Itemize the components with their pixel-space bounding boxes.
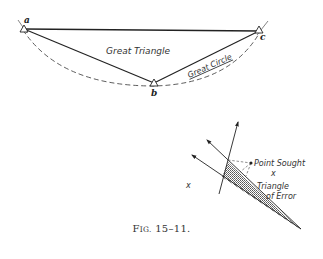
great-triangle-diagram: a c b Great Triangle Great Circle	[18, 15, 268, 98]
side-bc	[154, 31, 259, 83]
point-sought-label: Point Sought	[254, 159, 306, 168]
station-b-label: b	[151, 88, 157, 98]
figure-caption: FIG. 15–11.	[0, 223, 323, 234]
station-a-label: a	[24, 15, 30, 25]
figure-canvas: a c b Great Triangle Great Circle Point …	[0, 0, 323, 259]
caption-prefix: F	[132, 223, 139, 234]
great-triangle-label: Great Triangle	[106, 46, 171, 56]
triangle-of-error-diagram: Point Sought x x Triangle of Error	[185, 122, 306, 229]
x-mark-left: x	[185, 181, 191, 190]
station-c-label: c	[260, 32, 266, 42]
triangle-station-icon	[150, 79, 158, 86]
triangle-label-line1: Triangle	[257, 182, 289, 191]
triangle-label-line2: of Error	[266, 192, 297, 201]
caption-smallcaps: IG.	[140, 225, 152, 234]
great-circle-label: Great Circle	[186, 52, 233, 80]
caption-number: 15–11.	[152, 223, 191, 234]
side-ab	[24, 29, 154, 83]
station-c: c	[255, 21, 268, 42]
side-ac	[24, 29, 259, 31]
x-mark-right: x	[270, 169, 276, 178]
point-sought-dot	[250, 162, 253, 165]
